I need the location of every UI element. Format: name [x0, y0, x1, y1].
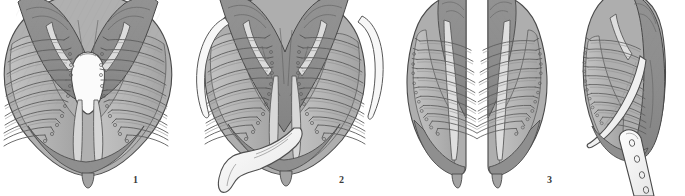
plate-artwork — [0, 0, 685, 196]
figure-1-label: 1 — [133, 174, 138, 185]
illustration-plate: 1 2 3 — [0, 0, 685, 196]
figure-3-label: 3 — [547, 174, 552, 185]
figure-2-label: 2 — [339, 174, 344, 185]
